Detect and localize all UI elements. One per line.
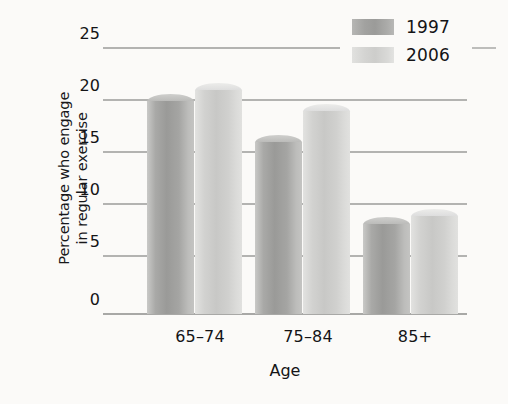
legend-item-1997: 1997 [352, 17, 450, 37]
x-tick-label-75-84: 75–84 [263, 327, 353, 346]
legend-label-1997: 1997 [406, 17, 450, 37]
bar-1997-75-84 [255, 135, 302, 314]
legend-label-2006: 2006 [406, 45, 450, 65]
bar-1997-85-plus [363, 217, 410, 314]
bar-body [147, 101, 194, 314]
bar-body [411, 216, 458, 314]
legend-item-2006: 2006 [352, 45, 450, 65]
x-tick-label-65-74: 65–74 [155, 327, 245, 346]
x-tick-label-85-plus: 85+ [375, 327, 455, 346]
y-tick-label-5: 5 [58, 232, 100, 251]
y-tick-label-15: 15 [58, 128, 100, 147]
y-tick-label-25: 25 [58, 24, 100, 43]
y-tick-label-10: 10 [58, 180, 100, 199]
x-axis-title: Age [240, 361, 330, 380]
y-tick-label-20: 20 [58, 76, 100, 95]
legend-swatch-2006-icon [352, 47, 394, 63]
bar-2006-75-84 [303, 104, 350, 314]
bar-2006-65-74 [195, 83, 242, 314]
bar-body [303, 111, 350, 314]
bar-body [255, 142, 302, 314]
y-tick-label-0: 0 [58, 290, 100, 309]
bar-body [195, 90, 242, 314]
plot-area [103, 47, 467, 314]
exercise-by-age-bar-chart: Percentage who engage in regular exercis… [0, 0, 508, 404]
legend: 1997 2006 [352, 10, 502, 72]
bar-1997-65-74 [147, 94, 194, 314]
legend-swatch-1997-icon [352, 19, 394, 35]
bar-2006-85-plus [411, 209, 458, 314]
bar-body [363, 224, 410, 314]
